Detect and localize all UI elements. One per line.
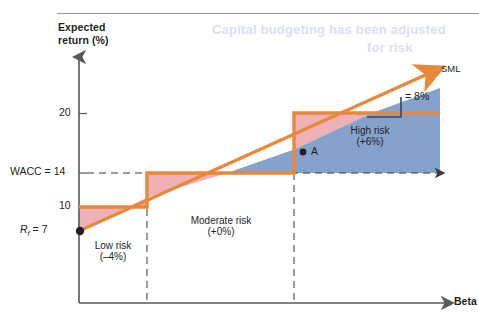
x-axis-title: Beta bbox=[454, 296, 477, 308]
region-moderate-risk-adjust: (+0%) bbox=[162, 226, 280, 237]
y-tick-label-20: 20 bbox=[59, 107, 71, 119]
region-label-moderate-risk: Moderate risk (+0%) bbox=[162, 215, 280, 238]
rf-symbol: R bbox=[20, 223, 28, 235]
region-high-risk-adjust: (+6%) bbox=[320, 136, 420, 147]
region-moderate-risk-name: Moderate risk bbox=[162, 215, 280, 226]
region-label-low-risk: Low risk (–4%) bbox=[79, 240, 147, 263]
region-high-risk-name: High risk bbox=[320, 125, 420, 136]
figure-container: Capital budgeting has been adjusted for … bbox=[0, 0, 479, 317]
region-label-high-risk: High risk (+6%) bbox=[320, 125, 420, 148]
rf-value: = 7 bbox=[30, 223, 48, 235]
y-axis-title-line1: Expected bbox=[58, 22, 106, 34]
sml-label: SML bbox=[441, 64, 461, 75]
region-low-risk-name: Low risk bbox=[79, 240, 147, 251]
y-tick-label-10: 10 bbox=[59, 200, 71, 212]
sml-chart-graphic bbox=[0, 0, 479, 317]
point-a-marker bbox=[300, 149, 307, 156]
slope-label: = 8% bbox=[405, 91, 429, 103]
point-a-label: A bbox=[311, 146, 318, 158]
risk-free-rate-point bbox=[76, 227, 84, 235]
wacc-label: WACC = 14 bbox=[10, 166, 65, 178]
y-axis-title-line2: return (%) bbox=[58, 35, 109, 47]
region-low-risk-adjust: (–4%) bbox=[79, 251, 147, 262]
risk-free-rate-label: Rf = 7 bbox=[20, 224, 48, 239]
